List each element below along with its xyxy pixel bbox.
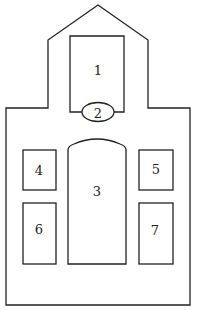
compartment-2-label: 2	[94, 106, 102, 121]
compartment-7-label: 7	[151, 223, 159, 238]
compartment-6-label: 6	[35, 222, 43, 237]
building-outline	[6, 5, 190, 305]
floor-plan-diagram: 1 2 3 4 5 6 7	[0, 0, 201, 311]
compartment-1-label: 1	[94, 63, 102, 78]
compartment-4-label: 4	[35, 163, 43, 178]
compartment-5-label: 5	[152, 162, 160, 177]
compartment-3	[68, 139, 126, 264]
compartment-3-label: 3	[93, 184, 101, 199]
